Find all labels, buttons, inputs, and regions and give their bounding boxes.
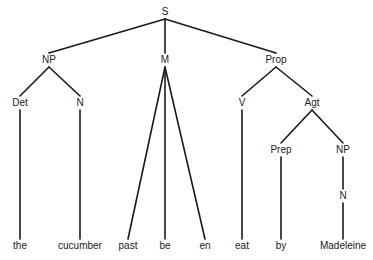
leaf-the: the <box>12 240 28 252</box>
leaf-past: past <box>118 240 139 252</box>
node-det: Det <box>11 97 29 109</box>
edge-s-prop <box>165 19 276 53</box>
node-prep: Prep <box>269 144 292 156</box>
edge-m-past <box>128 67 165 239</box>
leaf-en: en <box>198 240 211 252</box>
leaf-madeleine: Madeleine <box>319 240 367 252</box>
node-np-subject: NP <box>41 54 57 66</box>
node-S: S <box>161 6 170 18</box>
node-n-subject: N <box>75 97 84 109</box>
edge-prop-v <box>242 67 276 96</box>
edge-m-en <box>165 67 205 239</box>
syntax-tree-edges <box>0 0 373 260</box>
node-M: M <box>160 54 170 66</box>
edge-np1-det <box>20 67 49 96</box>
edge-agt-prep <box>281 110 312 143</box>
node-n-agent: N <box>338 190 347 202</box>
leaf-by: by <box>275 240 288 252</box>
edge-s-np1 <box>49 19 165 53</box>
edge-np1-n1 <box>49 67 80 96</box>
node-np-agent: NP <box>335 144 351 156</box>
node-v: V <box>238 97 247 109</box>
node-prop: Prop <box>264 54 287 66</box>
leaf-cucumber: cucumber <box>57 240 103 252</box>
node-agt: Agt <box>303 97 320 109</box>
edge-prop-agt <box>276 67 312 96</box>
leaf-eat: eat <box>234 240 250 252</box>
leaf-be: be <box>158 240 171 252</box>
edge-agt-np2 <box>312 110 343 143</box>
